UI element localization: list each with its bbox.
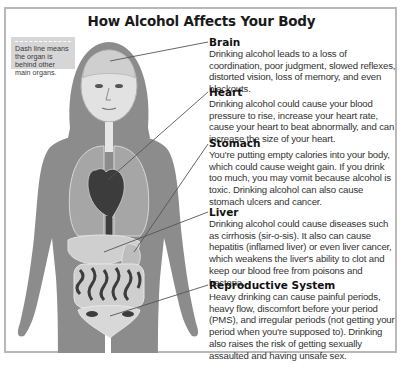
right-eye: [115, 84, 123, 88]
intestines-organ: [74, 264, 144, 308]
left-eye: [95, 84, 103, 88]
section-heading-heart: Heart: [209, 86, 398, 98]
trachea: [105, 122, 113, 152]
section-text-reproductive: Heavy drinking can cause painful periods…: [209, 291, 398, 361]
section-heading-brain: Brain: [209, 36, 398, 48]
section-reproductive: Reproductive System Heavy drinking can c…: [206, 279, 398, 361]
section-heart: Heart Drinking alcohol could cause your …: [206, 86, 398, 145]
section-heading-reproductive: Reproductive System: [209, 279, 398, 291]
infographic-title: How Alcohol Affects Your Body: [0, 13, 403, 29]
section-text-liver: Drinking alcohol could cause diseases su…: [209, 218, 398, 288]
female-body-illustration: [8, 38, 208, 353]
section-text-stomach: You're putting empty calories into your …: [209, 149, 398, 208]
section-liver: Liver Drinking alcohol could cause disea…: [206, 206, 398, 288]
section-heading-stomach: Stomach: [209, 137, 398, 149]
section-heading-liver: Liver: [209, 206, 398, 218]
section-stomach: Stomach You're putting empty calories in…: [206, 137, 398, 208]
